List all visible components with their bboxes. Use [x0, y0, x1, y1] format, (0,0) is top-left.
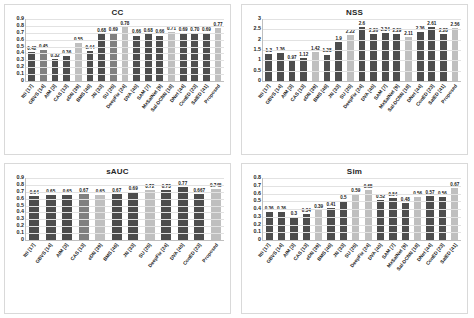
- grid-line: [263, 186, 461, 187]
- x-tick-label: JN [33]: [123, 243, 137, 259]
- chart-frame-nss: NSS 32.521.510.50 1.31.360.971.121.421.2…: [241, 4, 468, 155]
- bar[interactable]: 0.3: [290, 217, 297, 240]
- y-tick-label: 0.5: [17, 44, 25, 49]
- grid-line: [26, 192, 224, 193]
- bar[interactable]: 2.6: [359, 27, 366, 81]
- y-tick-label: 0.9: [17, 16, 25, 21]
- y-tick-label: 0.4: [17, 210, 25, 215]
- plot-area-sauc: 0.90.80.70.60.50.40.30.20.10 0.640.650.6…: [5, 178, 226, 313]
- bar[interactable]: 0.32: [52, 59, 59, 81]
- bar[interactable]: 0.57: [426, 196, 433, 240]
- y-tick-label: 0.7: [17, 189, 25, 194]
- grid-area-sauc: 0.640.650.650.670.650.670.690.720.730.77…: [25, 178, 224, 241]
- y-tick-label: 0.5: [254, 199, 262, 204]
- y-tick-label: 0.3: [254, 214, 262, 219]
- bar-slot: 0.69: [107, 19, 119, 81]
- x-label-slot: SU [25]: [141, 241, 158, 301]
- bar[interactable]: 0.44: [87, 51, 94, 81]
- y-tick-label: 0: [21, 78, 24, 83]
- grid-line: [263, 60, 461, 61]
- bar-slot: 0.36: [61, 19, 73, 81]
- x-label-slot: ConED [23]: [191, 241, 208, 301]
- bar-slot: 0.66: [154, 19, 166, 81]
- bar-slot: 0.68: [96, 19, 108, 81]
- bar[interactable]: 1.28: [324, 55, 331, 81]
- chart-title-cc: CC: [5, 8, 230, 17]
- y-tick-label: 0.1: [17, 230, 25, 235]
- bar[interactable]: 0.5: [340, 201, 347, 240]
- chart-panel-sauc: sAUC 0.90.80.70.60.50.40.30.20.10 0.640.…: [0, 159, 237, 318]
- y-tick-label: 0.5: [17, 203, 25, 208]
- bar-value-label: 0.3: [291, 212, 297, 217]
- bar[interactable]: 2.61: [428, 27, 435, 81]
- bar[interactable]: 2.26: [370, 34, 377, 81]
- bar-slot: 0.71: [166, 19, 178, 81]
- bar-value-label: 0.71: [167, 27, 176, 32]
- grid-line: [263, 178, 461, 179]
- y-tick-label: 0.2: [17, 65, 25, 70]
- x-label-slot: SalED [41]: [449, 241, 461, 301]
- x-axis-labels-cc: Itti [17]GBVS [14]AIM [3]CAS [13]eDN [39…: [25, 82, 224, 142]
- bar-value-label: 2.56: [451, 23, 460, 28]
- y-tick-label: 1: [258, 58, 261, 63]
- grid-line: [26, 226, 224, 227]
- bar-slot: 0.67: [109, 178, 126, 240]
- grid-line: [263, 19, 461, 20]
- bar-slot: 0.32: [49, 19, 61, 81]
- bar[interactable]: 1.3: [265, 54, 272, 81]
- bar-slot: 0.745: [208, 178, 225, 240]
- bar-value-label: 2.6: [359, 22, 365, 27]
- bar-slot: 0.42: [26, 19, 38, 81]
- bar[interactable]: 1.42: [312, 52, 319, 81]
- y-tick-label: 0.4: [17, 51, 25, 56]
- x-label-slot: DeepFix [24]: [158, 241, 175, 301]
- bar-value-label: 0.72: [145, 185, 154, 190]
- y-tick-label: 0.7: [254, 183, 262, 188]
- bar-slot: 0.65: [59, 178, 76, 240]
- bar[interactable]: 0.55: [75, 43, 82, 81]
- bar-slot: 0.78: [119, 19, 131, 81]
- bar[interactable]: 0.77: [215, 28, 222, 81]
- bar[interactable]: 0.56: [414, 197, 421, 240]
- y-tick-label: 0: [21, 237, 24, 242]
- y-tick-label: 0.4: [254, 206, 262, 211]
- bar[interactable]: 0.54: [389, 198, 396, 240]
- bar-value-label: 2.11: [404, 32, 413, 37]
- chart-frame-sim: Sim 0.80.70.60.50.40.30.20.10 0.360.360.…: [241, 163, 468, 314]
- y-tick-label: 0.1: [254, 230, 262, 235]
- grid-area-cc: 0.420.450.320.360.550.440.680.690.780.66…: [25, 19, 224, 82]
- x-label-slot: GBVS [14]: [42, 241, 59, 301]
- grid-line: [26, 212, 224, 213]
- bar-value-label: 1.12: [299, 53, 308, 58]
- y-tick-label: 0.6: [254, 191, 262, 196]
- bar[interactable]: 2.11: [405, 37, 412, 81]
- y-tick-label: 0.3: [17, 217, 25, 222]
- bar[interactable]: 0.45: [40, 50, 47, 81]
- y-tick-label: 0.7: [17, 30, 25, 35]
- bar[interactable]: 0.52: [377, 200, 384, 240]
- bar-slot: 0.66: [131, 19, 143, 81]
- x-label-slot: DVA [40]: [174, 241, 191, 301]
- bar[interactable]: 1.36: [277, 53, 284, 81]
- grid-area-sim: 0.360.360.30.340.390.410.50.590.650.520.…: [262, 178, 461, 241]
- grid-line: [26, 33, 224, 34]
- y-tick-label: 2: [258, 37, 261, 42]
- bar[interactable]: 0.77: [178, 187, 188, 240]
- bar-slot: 0.69: [125, 178, 142, 240]
- bar[interactable]: 2.22: [347, 35, 354, 81]
- bar-slot: 0.67: [76, 178, 93, 240]
- bar[interactable]: 1.9: [335, 42, 342, 81]
- x-tick-label: SU [25]: [139, 243, 153, 259]
- grid-line: [263, 50, 461, 51]
- bar[interactable]: 2.28: [440, 34, 447, 81]
- bar[interactable]: 2.56: [452, 28, 459, 81]
- chart-frame-cc: CC 0.90.80.70.60.50.40.30.20.10 0.420.45…: [4, 4, 231, 155]
- bar-slot: 0.667: [191, 178, 208, 240]
- bar-value-label: 0.32: [51, 54, 60, 59]
- bar[interactable]: 1.12: [300, 58, 307, 81]
- x-tick-label: AIM [3]: [56, 243, 70, 259]
- bar[interactable]: 0.56: [439, 197, 446, 240]
- grid-line: [263, 201, 461, 202]
- y-tick-label: 0.6: [17, 37, 25, 42]
- bar[interactable]: 2.29: [393, 34, 400, 81]
